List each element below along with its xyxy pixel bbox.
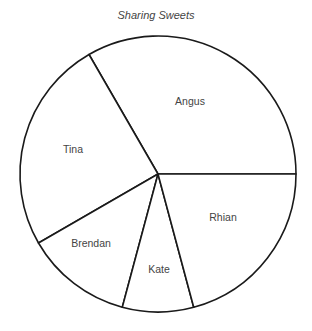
slice-label-rhian: Rhian (209, 211, 237, 223)
pie-chart: AngusTinaBrendanKateRhian (0, 0, 312, 331)
slice-label-tina: Tina (63, 143, 83, 155)
slice-label-angus: Angus (175, 95, 205, 107)
slice-label-kate: Kate (148, 263, 170, 275)
slice-label-brendan: Brendan (71, 237, 111, 249)
